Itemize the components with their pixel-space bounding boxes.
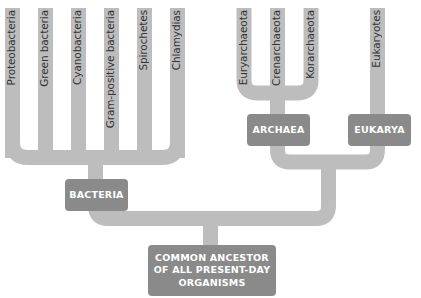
leaf-label-proteobacteria: Proteobacteria (5, 10, 20, 85)
node-eukarya: EUKARYA (348, 114, 411, 146)
node-archaea-label: ARCHAEA (252, 124, 304, 137)
leaf-label-euryarchaeota: Euryarchaeota (237, 10, 252, 85)
node-eukarya-label: EUKARYA (354, 124, 404, 137)
leaf-label-crenarchaeota: Crenarchaeota (270, 10, 285, 86)
leaf-label-eukaryotes: Eukaryotes (370, 10, 385, 68)
root-label-line-1: COMMON ANCESTOR (155, 252, 269, 265)
leaf-label-spirochetes: Spirochetes (137, 10, 152, 71)
root-label-line-3: ORGANISMS (179, 277, 246, 290)
root-label-line-2: OF ALL PRESENT-DAY (154, 264, 271, 277)
leaf-label-chlamydias: Chlamydias (170, 10, 185, 70)
node-bacteria: BACTERIA (65, 179, 128, 211)
leaf-label-korarchaeota: Korarchaeota (304, 10, 319, 79)
leaf-label-cyanobacteria: Cyanobacteria (71, 10, 86, 85)
leaf-label-gram-positive-bacteria: Gram-positive bacteria (104, 10, 119, 128)
node-common-ancestor: COMMON ANCESTOR OF ALL PRESENT-DAY ORGAN… (148, 245, 276, 296)
leaf-label-green-bacteria: Green bacteria (38, 10, 53, 87)
node-bacteria-label: BACTERIA (69, 189, 123, 202)
node-archaea: ARCHAEA (247, 114, 310, 146)
